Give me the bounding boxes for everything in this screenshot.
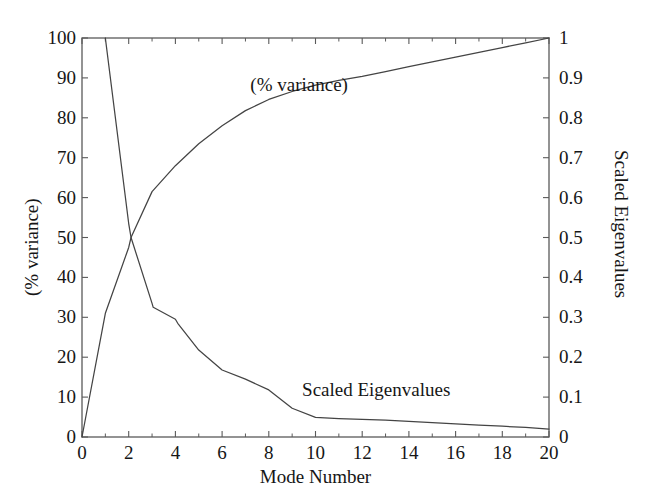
series-annotation-2: Scaled Eigenvalues bbox=[302, 380, 450, 399]
axes-frame bbox=[82, 38, 549, 437]
x-axis-tick-label: 6 bbox=[202, 443, 242, 462]
y-axis-tick-label-right: 0.8 bbox=[559, 108, 583, 127]
y-axis-tick-label-left: 80 bbox=[28, 108, 76, 127]
series-line-2 bbox=[105, 38, 549, 429]
y-axis-tick-label-left: 30 bbox=[28, 307, 76, 326]
figure-canvas: 010203040506070809010000.10.20.30.40.50.… bbox=[0, 0, 662, 499]
y-axis-tick-label-right: 0.4 bbox=[559, 267, 583, 286]
x-axis-tick-label: 18 bbox=[482, 443, 522, 462]
y-axis-tick-label-right: 0.3 bbox=[559, 307, 583, 326]
y-axis-tick-label-left: 90 bbox=[28, 68, 76, 87]
x-axis-tick-label: 0 bbox=[62, 443, 102, 462]
y-axis-tick-label-left: 70 bbox=[28, 148, 76, 167]
series-annotation-1: (% variance) bbox=[250, 75, 348, 94]
x-axis-title: Mode Number bbox=[246, 467, 386, 486]
x-axis-tick-label: 2 bbox=[109, 443, 149, 462]
y-axis-tick-label-left: 20 bbox=[28, 347, 76, 366]
y-axis-tick-label-left: 10 bbox=[28, 387, 76, 406]
series-line-1 bbox=[82, 38, 549, 437]
x-axis-tick-label: 12 bbox=[342, 443, 382, 462]
y-axis-title-right: Scaled Eigenvalues bbox=[612, 150, 631, 298]
y-axis-tick-label-right: 0.6 bbox=[559, 188, 583, 207]
y-axis-tick-label-right: 0.1 bbox=[559, 387, 583, 406]
y-axis-tick-label-right: 0.5 bbox=[559, 228, 583, 247]
y-axis-tick-label-right: 0.2 bbox=[559, 347, 583, 366]
y-axis-title-left: (% variance) bbox=[22, 198, 41, 296]
x-axis-tick-label: 20 bbox=[529, 443, 569, 462]
y-axis-tick-label-right: 1 bbox=[559, 28, 569, 47]
x-axis-tick-label: 8 bbox=[249, 443, 289, 462]
x-axis-tick-label: 10 bbox=[296, 443, 336, 462]
y-axis-tick-label-left: 100 bbox=[28, 28, 76, 47]
y-axis-tick-label-right: 0.9 bbox=[559, 68, 583, 87]
x-axis-tick-label: 14 bbox=[389, 443, 429, 462]
y-axis-tick-label-right: 0.7 bbox=[559, 148, 583, 167]
x-axis-tick-label: 4 bbox=[155, 443, 195, 462]
x-axis-tick-label: 16 bbox=[436, 443, 476, 462]
